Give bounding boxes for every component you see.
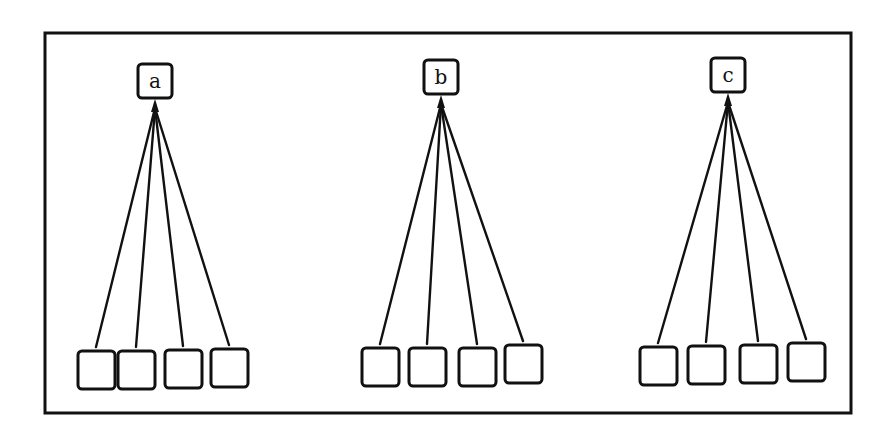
child-node-c-3 xyxy=(740,345,777,383)
root-label-a: a xyxy=(149,69,161,93)
child-node-c-2 xyxy=(688,346,725,384)
child-node-a-3 xyxy=(165,350,202,388)
tree-a: a xyxy=(78,64,248,389)
edge-b-1 xyxy=(380,104,441,344)
edge-a-3 xyxy=(155,108,183,346)
edge-junction-b xyxy=(437,95,445,108)
diagram-canvas: abc xyxy=(0,0,893,439)
child-node-b-2 xyxy=(409,348,446,386)
tree-b: b xyxy=(362,60,542,386)
edge-junction-a xyxy=(151,99,159,112)
edge-c-4 xyxy=(728,102,806,339)
child-node-c-1 xyxy=(640,347,677,385)
child-node-a-2 xyxy=(118,351,155,389)
child-node-b-4 xyxy=(505,345,542,383)
child-node-a-4 xyxy=(211,349,248,387)
child-node-b-3 xyxy=(459,348,496,386)
edge-b-4 xyxy=(441,104,523,341)
child-node-b-1 xyxy=(362,348,399,386)
root-label-b: b xyxy=(435,65,448,89)
child-node-a-1 xyxy=(78,351,115,389)
edge-b-3 xyxy=(441,104,477,344)
root-label-c: c xyxy=(722,63,733,87)
edge-a-4 xyxy=(155,108,229,345)
edge-junction-c xyxy=(724,93,732,106)
tree-c: c xyxy=(640,58,825,385)
child-node-c-4 xyxy=(788,343,825,381)
edge-c-3 xyxy=(728,102,758,341)
edge-b-2 xyxy=(427,104,441,344)
